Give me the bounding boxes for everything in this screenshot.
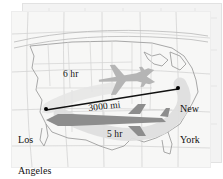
flight-map-figure: 6 hr 3000 mi 5 hr New York Los Angeles [0,0,223,179]
los-angeles-label: Los Angeles [18,115,51,179]
new-york-label: New York [180,84,200,166]
los-angeles-label-line1: Los [18,135,51,145]
new-york-label-line1: New [180,104,200,114]
los-angeles-label-line2: Angeles [18,166,51,176]
westbound-time-label: 6 hr [63,70,78,80]
new-york-label-line2: York [180,135,200,145]
eastbound-time-label: 5 hr [107,130,122,140]
los-angeles-marker [44,107,48,111]
